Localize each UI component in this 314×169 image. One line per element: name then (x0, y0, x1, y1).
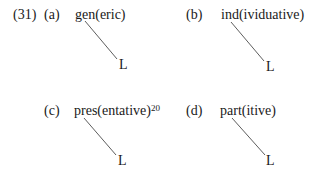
branch-b (231, 22, 264, 61)
branch-a (85, 21, 117, 59)
branch-d (232, 118, 265, 155)
tree-branches (0, 0, 314, 169)
branch-c (84, 118, 116, 155)
